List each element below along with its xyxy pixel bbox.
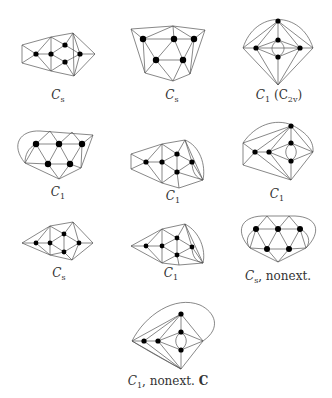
graph-panel-9 [241, 216, 315, 262]
panel-5-label: C1 [166, 189, 180, 205]
graph-panel-1 [22, 33, 95, 76]
graph-panel-3 [243, 18, 313, 85]
panel-6-label: C1 [270, 187, 284, 203]
panel-7-label: Cs [52, 266, 65, 282]
graph-panel-10 [132, 302, 215, 369]
panel-9-label: Cs, nonext. [245, 269, 311, 285]
graph-panel-7 [22, 222, 93, 260]
panel-10-label: C1, nonext. C [128, 374, 208, 390]
panel-2-label: Cs [165, 88, 178, 104]
graph-panel-5 [131, 140, 204, 188]
graph-panel-8 [131, 224, 204, 265]
panel-4-label: C1 [51, 185, 65, 201]
panel-1-label: Cs [51, 88, 64, 104]
graph-panel-2 [131, 26, 205, 81]
panel-8-label: C1 [164, 266, 178, 282]
graph-panel-6 [243, 122, 313, 180]
graph-panel-4 [18, 131, 93, 179]
panel-3-label: C1 (C2v) [256, 88, 302, 104]
